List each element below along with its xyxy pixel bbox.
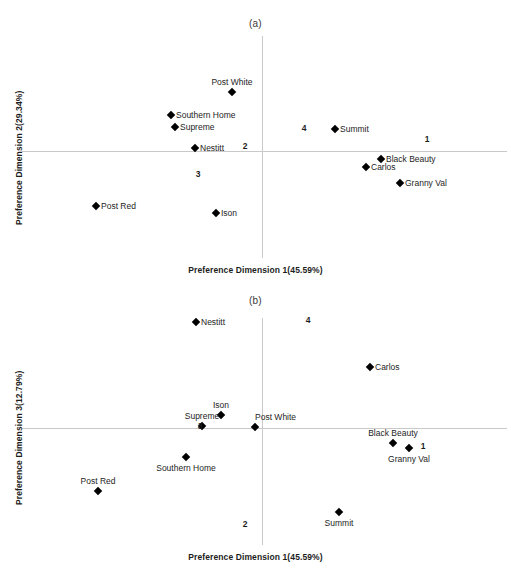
marker-diamond-icon bbox=[335, 508, 343, 516]
marker-diamond-icon bbox=[366, 363, 374, 371]
data-point-label: Ison bbox=[221, 209, 237, 218]
panel-a: (a) Post White Southern Home Supreme Nes… bbox=[0, 0, 511, 290]
marker-diamond-icon bbox=[171, 123, 179, 131]
cluster-label-3: 3 bbox=[198, 422, 203, 431]
panel-b-horizontal-axis-line bbox=[22, 428, 507, 429]
marker-diamond-icon bbox=[251, 423, 259, 431]
data-point-label: Nestitt bbox=[200, 144, 224, 153]
data-point-label: Granny Val bbox=[388, 455, 430, 464]
marker-diamond-icon bbox=[362, 163, 370, 171]
data-point-label: Carlos bbox=[371, 163, 396, 172]
marker-diamond-icon bbox=[192, 318, 200, 326]
data-point-label: Post Red bbox=[101, 202, 136, 211]
data-point-label: Ison bbox=[213, 401, 229, 410]
marker-diamond-icon bbox=[182, 453, 190, 461]
cluster-label-4: 4 bbox=[302, 124, 307, 133]
marker-diamond-icon bbox=[167, 111, 175, 119]
data-point-label: Supreme bbox=[180, 123, 215, 132]
panel-a-horizontal-axis-line bbox=[22, 151, 507, 152]
panel-a-vertical-axis-line bbox=[262, 36, 263, 258]
data-point-label: Carlos bbox=[375, 363, 400, 372]
marker-diamond-icon bbox=[405, 444, 413, 452]
data-point-label: Post White bbox=[211, 78, 252, 87]
data-point-label: Summit bbox=[340, 125, 369, 134]
panel-a-y-axis-title: Preference Dimension 2(29.34%) bbox=[14, 91, 24, 225]
cluster-label-3: 3 bbox=[196, 170, 201, 179]
marker-diamond-icon bbox=[92, 202, 100, 210]
marker-diamond-icon bbox=[331, 125, 339, 133]
panel-b-vertical-axis-line bbox=[262, 318, 263, 545]
marker-diamond-icon bbox=[228, 88, 236, 96]
marker-diamond-icon bbox=[94, 487, 102, 495]
cluster-label-4: 4 bbox=[306, 316, 311, 325]
cluster-label-2: 2 bbox=[243, 520, 248, 529]
data-point-label: Granny Val bbox=[405, 179, 447, 188]
figure-root: { "figure": { "background": "#ffffff", "… bbox=[0, 0, 511, 572]
data-point-label: Black Beauty bbox=[368, 429, 418, 438]
data-point-label: Supreme bbox=[185, 412, 220, 421]
data-point-label: Southern Home bbox=[156, 464, 216, 473]
data-point-label: Summit bbox=[325, 519, 354, 528]
panel-a-plot-area: Post White Southern Home Supreme Nestitt… bbox=[0, 0, 511, 290]
panel-b-y-axis-title: Preference Dimension 3(12.79%) bbox=[14, 371, 24, 505]
cluster-label-2: 2 bbox=[243, 142, 248, 151]
cluster-label-1: 1 bbox=[425, 135, 430, 144]
marker-diamond-icon bbox=[212, 209, 220, 217]
data-point-label: Post White bbox=[255, 413, 296, 422]
data-point-label: Post Red bbox=[81, 477, 116, 486]
panel-a-x-axis-title: Preference Dimension 1(45.59%) bbox=[0, 265, 511, 275]
data-point-label: Nestitt bbox=[201, 318, 225, 327]
marker-diamond-icon bbox=[396, 179, 404, 187]
marker-diamond-icon bbox=[389, 439, 397, 447]
cluster-label-1: 1 bbox=[421, 442, 426, 451]
data-point-label: Southern Home bbox=[176, 111, 236, 120]
panel-b: (b) Nestitt Carlos Ison Supreme Post Whi… bbox=[0, 290, 511, 572]
panel-b-x-axis-title: Preference Dimension 1(45.59%) bbox=[0, 552, 511, 562]
panel-b-plot-area: Nestitt Carlos Ison Supreme Post White B… bbox=[0, 290, 511, 572]
